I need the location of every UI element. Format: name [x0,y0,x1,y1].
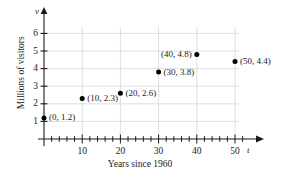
y-axis-tick-label: 2 [26,99,38,109]
data-point-label: (0, 1.2) [49,113,75,122]
x-axis-tick-label: 50 [224,147,246,157]
data-point-label: (40, 4.8) [161,50,192,59]
x-axis-tick-label: 40 [186,147,208,157]
y-axis-tick-label: 5 [26,47,38,57]
data-point-marker [194,52,199,57]
y-axis-tick-label: 1 [26,117,38,127]
x-axis-tick-label: 10 [71,147,93,157]
x-axis-title: Years since 1960 [42,160,238,170]
y-axis-tick-label: 3 [26,82,38,92]
data-point-label: (30, 3.8) [164,68,195,77]
x-axis-symbol-label: t [247,146,250,155]
y-axis-title: Millions of visitors [17,13,27,133]
y-axis-symbol-label: v [35,7,39,16]
data-point-label: (50, 4.4) [240,57,271,66]
data-point-label: (10, 2.3) [87,94,118,103]
data-point-label: (20, 2.6) [125,89,156,98]
y-axis-tick-label: 6 [26,29,38,39]
y-axis-tick-label: 4 [26,64,38,74]
x-axis-tick-label: 30 [148,147,170,157]
x-axis-arrowhead [256,136,264,143]
scatter-plot-figure: v t 123456 1020304050 (0, 1.2)(10, 2.3)(… [0,0,284,178]
x-axis-tick-label: 20 [109,147,131,157]
data-point-marker [233,59,238,64]
data-point-marker [156,70,161,75]
data-point-marker [80,96,85,101]
y-axis-arrowhead [41,7,48,14]
axes-group [38,7,264,146]
data-point-marker [42,115,47,120]
data-point-marker [118,91,123,96]
